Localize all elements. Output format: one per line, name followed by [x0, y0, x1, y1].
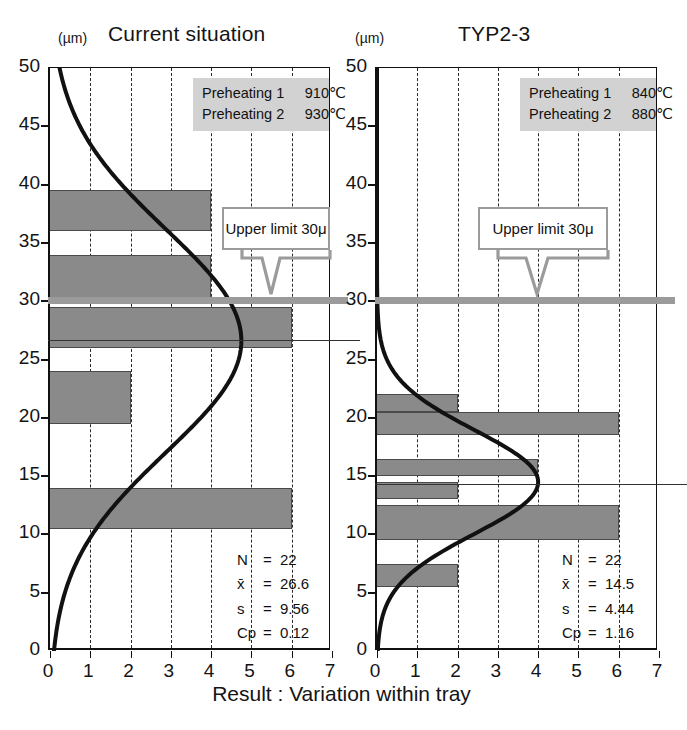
x-axis-tick [458, 651, 459, 658]
x-axis-tick [659, 651, 660, 658]
info-value: 910℃ [294, 83, 346, 104]
y-axis-tick [368, 475, 377, 477]
callout-upper-limit-typ23: Upper limit 30μ [478, 207, 608, 250]
y-axis-label: 35 [331, 230, 367, 252]
y-axis-tick [368, 242, 377, 244]
y-axis-tick [41, 533, 50, 535]
stat-key: Cp [562, 621, 588, 645]
y-axis-tick [368, 533, 377, 535]
histogram-bar [50, 307, 292, 348]
stat-row: x̄ = 26.6 [237, 572, 309, 596]
stat-key: s [562, 597, 588, 621]
info-box-current: Preheating 1 910℃ Preheating 2 930℃ [193, 78, 329, 131]
x-axis-tick [211, 651, 212, 658]
stat-row: N = 22 [562, 548, 634, 572]
y-axis-tick [368, 417, 377, 419]
info-label: Preheating 2 [202, 104, 294, 125]
stat-eq: = [263, 548, 280, 572]
y-axis-label: 50 [4, 55, 40, 77]
x-axis-tick [90, 651, 91, 658]
stat-eq: = [588, 548, 605, 572]
stat-value: 1.16 [605, 621, 634, 645]
x-axis-label: 7 [316, 660, 344, 682]
info-label: Preheating 1 [202, 83, 294, 104]
x-axis-tick [251, 651, 252, 658]
y-axis-label: 0 [331, 638, 367, 660]
stat-key: s [237, 597, 263, 621]
x-axis-tick [538, 651, 539, 658]
x-axis-label: 2 [442, 660, 470, 682]
x-axis-label: 5 [235, 660, 263, 682]
y-axis-tick [368, 359, 377, 361]
x-axis-tick [619, 651, 620, 658]
info-value: 840℃ [621, 83, 673, 104]
gridline-vertical [171, 68, 172, 648]
y-axis-label: 40 [331, 172, 367, 194]
stat-eq: = [263, 621, 280, 645]
x-axis-tick [171, 651, 172, 658]
chart-title-left: Current situation [108, 22, 265, 46]
y-axis-tick [41, 359, 50, 361]
histogram-bar [50, 488, 292, 529]
histogram-bar [377, 412, 619, 435]
y-axis-tick [41, 242, 50, 244]
stat-key: Cp [237, 621, 263, 645]
x-axis-label: 7 [643, 660, 671, 682]
upper-limit-line [375, 297, 675, 304]
stat-key: N [237, 548, 263, 572]
stat-row: Cp = 0.12 [237, 621, 309, 645]
mean-line [48, 340, 360, 341]
y-axis-label: 45 [4, 113, 40, 135]
histogram-bar [50, 255, 211, 302]
y-axis-label: 5 [331, 580, 367, 602]
stat-key: x̄ [237, 572, 263, 596]
x-axis-label: 2 [115, 660, 143, 682]
stat-eq: = [588, 572, 605, 596]
x-axis-label: 0 [34, 660, 62, 682]
y-axis-tick [41, 184, 50, 186]
info-row: Preheating 2 880℃ [529, 104, 647, 125]
mean-line [375, 484, 687, 485]
gridline-vertical [538, 68, 539, 648]
callout-upper-limit-current: Upper limit 30μ [222, 207, 330, 250]
y-axis-label: 15 [4, 463, 40, 485]
callout-tail-current-icon [222, 248, 332, 304]
y-axis-label: 10 [331, 521, 367, 543]
y-axis-label: 15 [331, 463, 367, 485]
histogram-bar [377, 459, 538, 476]
y-axis-label: 30 [331, 288, 367, 310]
y-axis-label: 40 [4, 172, 40, 194]
gridline-vertical [90, 68, 91, 648]
stat-value: 4.44 [605, 597, 634, 621]
gridline-vertical [417, 68, 418, 648]
y-axis-label: 25 [4, 347, 40, 369]
info-box-typ23: Preheating 1 840℃ Preheating 2 880℃ [520, 78, 656, 131]
gridline-vertical [458, 68, 459, 648]
y-axis-tick [41, 475, 50, 477]
x-axis-tick [498, 651, 499, 658]
x-axis-label: 4 [195, 660, 223, 682]
gridline-vertical [131, 68, 132, 648]
x-axis-label: 6 [603, 660, 631, 682]
histogram-bar [50, 190, 211, 231]
stat-value: 22 [605, 548, 622, 572]
x-axis-label: 1 [74, 660, 102, 682]
stat-eq: = [263, 572, 280, 596]
x-axis-tick [131, 651, 132, 658]
y-axis-unit-left: (µm) [58, 30, 87, 46]
chart-title-right: TYP2-3 [458, 22, 530, 46]
y-axis-label: 20 [4, 405, 40, 427]
x-axis-tick [292, 651, 293, 658]
y-axis-label: 30 [4, 288, 40, 310]
stat-value: 22 [280, 548, 297, 572]
x-axis-label: 6 [276, 660, 304, 682]
y-axis-tick [41, 592, 50, 594]
stat-eq: = [588, 621, 605, 645]
gridline-vertical [498, 68, 499, 648]
x-axis-label: 3 [482, 660, 510, 682]
x-axis-tick [377, 651, 378, 658]
histogram-bar [377, 394, 458, 411]
stat-eq: = [588, 597, 605, 621]
info-row: Preheating 1 840℃ [529, 83, 647, 104]
y-axis-label: 50 [331, 55, 367, 77]
